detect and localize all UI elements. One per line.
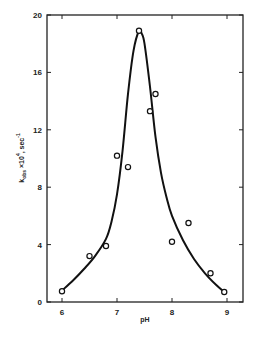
svg-text:kobs ×104, sec-1: kobs ×104, sec-1 [15,133,27,183]
data-point [147,109,152,114]
y-tick-label: 0 [38,298,43,307]
data-point [136,28,141,33]
data-point [186,220,191,225]
data-point [87,253,92,258]
x-tick-label: 9 [225,308,230,317]
curve-line [62,30,224,292]
data-point [222,289,227,294]
data-points [59,28,226,294]
y-tick-label: 12 [33,126,42,135]
x-tick-label: 6 [60,308,65,317]
y-axis-label: kobs ×104, sec-1 [15,133,27,183]
x-tick-label: 8 [170,308,175,317]
data-point [125,165,130,170]
data-point [114,153,119,158]
y-tick-label: 4 [38,241,43,250]
y-tick-label: 20 [33,11,42,20]
y-tick-label: 16 [33,68,42,77]
fitted-curve [62,30,224,292]
plot-frame [47,15,243,302]
y-tick-label: 8 [38,183,43,192]
x-tick-label: 7 [115,308,120,317]
data-point [208,271,213,276]
data-point [103,243,108,248]
data-point [169,239,174,244]
data-point [59,289,64,294]
chart: 6789048121620 pH kobs ×104, sec-1 [0,0,254,337]
data-point [153,91,158,96]
x-axis-label: pH [140,316,149,324]
